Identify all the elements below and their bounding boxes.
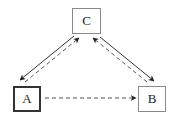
edge-b-to-c [93,38,147,82]
edge-a-to-c [25,38,79,82]
node-a-label: A [22,91,31,107]
node-b[interactable]: B [138,86,166,112]
node-c-label: C [82,13,91,29]
node-a[interactable]: A [13,86,41,112]
diagram-canvas: C A B [0,0,178,124]
node-c[interactable]: C [72,8,101,34]
edge-c-to-b [100,37,154,81]
edge-c-to-a [20,36,74,80]
node-b-label: B [148,91,157,107]
